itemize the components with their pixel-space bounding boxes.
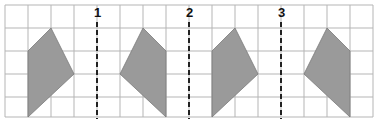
reflection-diagram: 123 — [0, 0, 377, 120]
mirror-label-1: 1 — [94, 5, 101, 20]
mirror-label-3: 3 — [278, 5, 285, 20]
mirror-lines: 123 — [94, 5, 285, 119]
mirror-label-2: 2 — [186, 5, 193, 20]
